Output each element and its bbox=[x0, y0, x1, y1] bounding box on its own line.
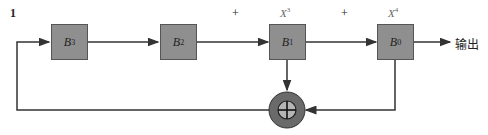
register-b2-name: B bbox=[173, 35, 180, 50]
register-b3: B3 bbox=[51, 24, 88, 60]
input-label: 1 bbox=[10, 6, 16, 21]
register-b3-name: B bbox=[64, 35, 71, 50]
register-b1: B1 bbox=[269, 24, 306, 60]
register-b3-sub: 3 bbox=[71, 38, 75, 47]
register-b0-sub: 0 bbox=[397, 38, 401, 47]
output-label: 输出 bbox=[455, 35, 479, 52]
tap-b0-line bbox=[306, 60, 395, 110]
tap-x4-base: X bbox=[388, 7, 395, 19]
diagram-lines bbox=[0, 0, 488, 135]
register-b2-sub: 2 bbox=[180, 38, 184, 47]
tap-x3-base: X bbox=[280, 7, 287, 19]
tap-label-x4: X4 bbox=[388, 6, 398, 19]
plus-sign-1: + bbox=[232, 6, 239, 21]
register-b1-name: B bbox=[282, 35, 289, 50]
register-b0-name: B bbox=[390, 35, 397, 50]
tap-label-x3: X3 bbox=[280, 6, 290, 19]
plus-sign-2: + bbox=[341, 6, 348, 21]
tap-x3-exp: 3 bbox=[287, 6, 291, 14]
tap-x4-exp: 4 bbox=[395, 6, 399, 14]
register-b0: B0 bbox=[377, 24, 414, 60]
register-b2: B2 bbox=[160, 24, 197, 60]
register-b1-sub: 1 bbox=[289, 38, 293, 47]
